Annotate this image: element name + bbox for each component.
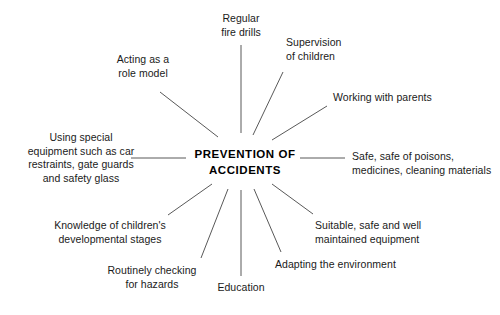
- node-label-routinely-checking-for-hazards: Routinely checking for hazards: [107, 264, 196, 291]
- hub-title: PREVENTION OF ACCIDENTS: [194, 146, 295, 178]
- node-label-working-with-parents: Working with parents: [333, 91, 432, 105]
- spoke-line-knowledge-of-childrens-developmental-stages: [168, 184, 212, 215]
- node-label-using-special-equipment: Using special equipment such as car rest…: [28, 131, 135, 185]
- spoke-line-routinely-checking-for-hazards: [201, 189, 228, 258]
- node-label-knowledge-of-childrens-developmental-stages: Knowledge of children's developmental st…: [54, 219, 166, 246]
- node-label-safe-safe-of-poisons: Safe, safe of poisons, medicines, cleani…: [352, 150, 491, 177]
- spoke-line-acting-as-a-role-model: [160, 92, 218, 137]
- node-label-education: Education: [217, 281, 264, 295]
- node-label-suitable-safe-well-maintained-equipment: Suitable, safe and well maintained equip…: [315, 219, 421, 246]
- node-label-supervision-of-children: Supervision of children: [286, 36, 341, 63]
- spoke-line-adapting-the-environment: [254, 189, 281, 252]
- mind-map-diagram: PREVENTION OF ACCIDENTS Acting as a role…: [0, 0, 500, 315]
- node-label-acting-as-a-role-model: Acting as a role model: [117, 53, 170, 80]
- spoke-line-supervision-of-children: [253, 72, 283, 135]
- node-label-regular-fire-drills: Regular fire drills: [221, 12, 261, 39]
- spoke-line-working-with-parents: [272, 106, 327, 140]
- spoke-line-suitable-safe-well-maintained-equipment: [272, 184, 313, 214]
- node-label-adapting-the-environment: Adapting the environment: [275, 258, 396, 272]
